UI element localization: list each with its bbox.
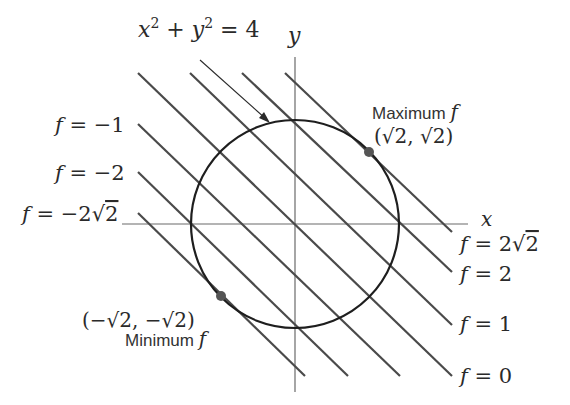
maximum-point-label: (√2, √2) — [374, 124, 453, 148]
y-axis-label: y — [287, 23, 301, 48]
label-f-2sqrt2: f = 2√2 — [458, 232, 539, 256]
constraint-arrow — [200, 60, 266, 119]
label-f-neg-2: f = −2 — [53, 161, 125, 185]
minimum-label: Minimum f — [125, 327, 210, 351]
minimum-point — [216, 291, 226, 301]
constraint-label: x2 + y2 = 4 — [138, 15, 260, 42]
label-f-1: f = 1 — [458, 312, 512, 336]
label-f-0: f = 0 — [458, 364, 512, 388]
label-f-neg-1: f = −1 — [53, 113, 125, 137]
maximum-label: Maximum f — [372, 100, 461, 124]
label-f-2: f = 2 — [458, 262, 512, 286]
x-axis-label: x — [481, 207, 492, 231]
lagrange-diagram: x2 + y2 = 4 y x f = −1 f = −2 f = −2√2 f… — [0, 0, 570, 405]
maximum-point — [364, 147, 374, 157]
minimum-point-label: (−√2, −√2) — [82, 308, 195, 332]
label-f-neg-2sqrt2: f = −2√2 — [20, 202, 118, 226]
level-line-2 — [242, 73, 452, 272]
